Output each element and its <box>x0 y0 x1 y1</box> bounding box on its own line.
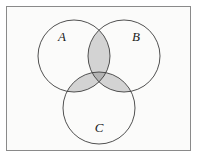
set-label-a: A <box>57 29 66 44</box>
set-label-c: C <box>95 120 104 135</box>
venn-diagram-canvas: A B C <box>0 0 198 159</box>
set-label-b: B <box>132 29 140 44</box>
venn-diagram-figure: A B C <box>0 0 198 159</box>
